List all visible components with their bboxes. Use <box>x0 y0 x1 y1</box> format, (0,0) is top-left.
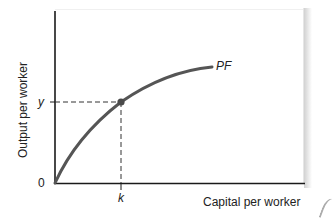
y-tick-label: y <box>38 96 44 108</box>
curve-label: PF <box>216 60 231 72</box>
x-tick-label: k <box>118 192 124 204</box>
equilibrium-point <box>117 98 124 105</box>
x-axis-label: Capital per worker <box>203 196 300 208</box>
production-function-curve <box>55 67 212 183</box>
y-axis-label: Output per worker <box>16 62 30 158</box>
origin-label: 0 <box>38 177 45 189</box>
